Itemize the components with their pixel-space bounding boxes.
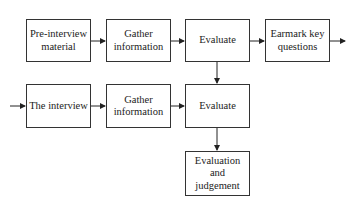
- node-evaluate-2: Evaluate: [185, 84, 250, 128]
- node-pre-interview-material: Pre-interview material: [26, 19, 91, 62]
- node-gather-information-1: Gather information: [106, 19, 171, 62]
- node-the-interview: The interview: [26, 84, 91, 128]
- node-evaluation-and-judgement: Evaluation and judgement: [185, 151, 250, 196]
- node-earmark-key-questions: Earmark key questions: [265, 19, 330, 62]
- node-evaluate-1: Evaluate: [185, 19, 250, 62]
- node-gather-information-2: Gather information: [106, 84, 171, 128]
